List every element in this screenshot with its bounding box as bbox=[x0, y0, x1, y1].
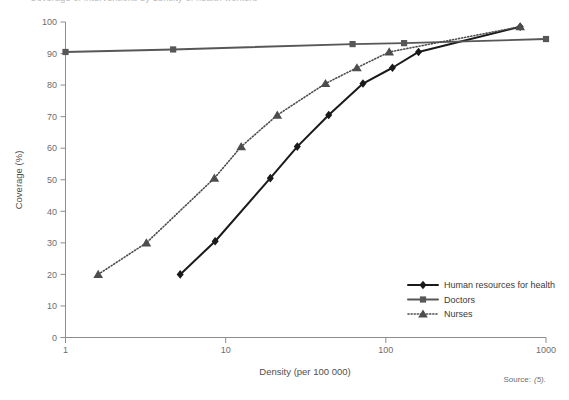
y-tick-label: 50 bbox=[47, 175, 57, 185]
marker-triangle bbox=[352, 63, 362, 71]
y-tick-label: 30 bbox=[47, 238, 57, 248]
y-tick-label: 60 bbox=[47, 143, 57, 153]
y-tick-label: 0 bbox=[52, 333, 57, 343]
marker-square bbox=[349, 41, 355, 47]
marker-square bbox=[401, 40, 407, 46]
y-tick-group: 0102030405060708090100 bbox=[42, 17, 66, 343]
series-nurses bbox=[93, 22, 525, 278]
x-tick-label: 1 bbox=[63, 345, 68, 355]
y-tick-label: 10 bbox=[47, 301, 57, 311]
y-tick-label: 100 bbox=[42, 17, 57, 27]
marker-triangle bbox=[272, 110, 282, 118]
y-tick-label: 20 bbox=[47, 270, 57, 280]
chart-canvas: 0102030405060708090100 1101001000 Covera… bbox=[0, 0, 569, 400]
y-tick-label: 80 bbox=[47, 80, 57, 90]
y-tick-label: 40 bbox=[47, 207, 57, 217]
y-axis: 0102030405060708090100 bbox=[42, 17, 66, 343]
y-tick-label: 70 bbox=[47, 112, 57, 122]
x-tick-label: 10 bbox=[221, 345, 231, 355]
series-path bbox=[98, 27, 520, 275]
y-axis-title: Coverage (%) bbox=[13, 151, 24, 210]
data-series-group bbox=[62, 22, 549, 279]
series-doctors bbox=[62, 36, 549, 55]
legend-label: Nurses bbox=[444, 309, 473, 319]
marker-triangle bbox=[93, 270, 103, 278]
marker-square bbox=[62, 49, 68, 55]
legend-item-human-resources-for-health[interactable]: Human resources for health bbox=[408, 280, 555, 290]
x-axis-title: Density (per 100 000) bbox=[259, 366, 350, 377]
figure-container: Coverage of interventions by density of … bbox=[0, 0, 569, 400]
marker-diamond bbox=[415, 48, 422, 57]
series-path bbox=[180, 27, 520, 275]
series-human-resources-for-health bbox=[177, 22, 524, 278]
series-path bbox=[66, 39, 547, 52]
x-axis: 1101001000 bbox=[63, 338, 556, 356]
x-tick-group: 1101001000 bbox=[63, 338, 556, 356]
marker-square bbox=[420, 296, 426, 302]
marker-triangle bbox=[321, 79, 331, 87]
marker-diamond bbox=[389, 63, 396, 72]
x-tick-label: 100 bbox=[378, 345, 393, 355]
source-note: Source:(5). bbox=[503, 375, 546, 384]
legend-item-doctors[interactable]: Doctors bbox=[408, 295, 476, 305]
chart-legend: Human resources for healthDoctorsNurses bbox=[408, 280, 555, 319]
marker-triangle bbox=[515, 22, 525, 30]
x-tick-label: 1000 bbox=[536, 345, 556, 355]
marker-square bbox=[543, 36, 549, 42]
legend-item-nurses[interactable]: Nurses bbox=[408, 309, 473, 319]
marker-triangle bbox=[236, 142, 246, 150]
legend-label: Human resources for health bbox=[444, 280, 555, 290]
marker-diamond bbox=[419, 281, 426, 290]
marker-square bbox=[170, 46, 176, 52]
y-tick-label: 90 bbox=[47, 49, 57, 59]
legend-label: Doctors bbox=[444, 295, 476, 305]
